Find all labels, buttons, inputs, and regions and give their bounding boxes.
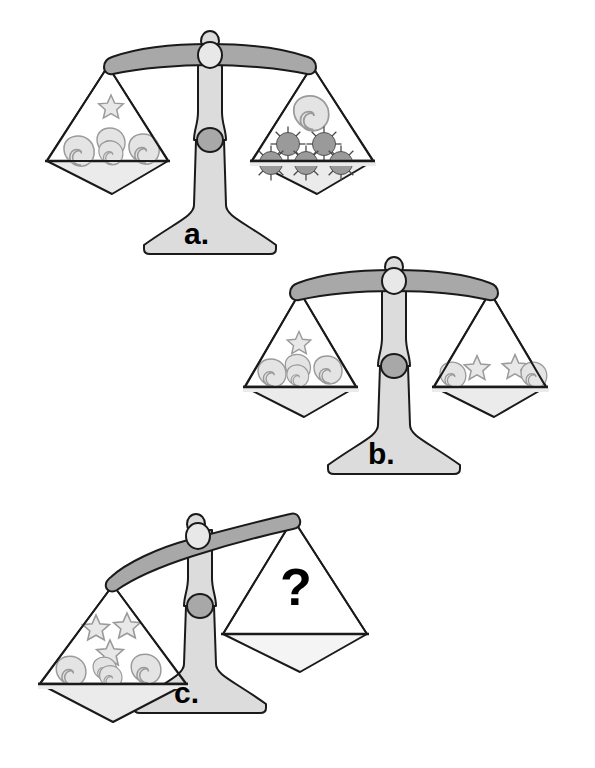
scale-b-pivot-knob [381, 354, 407, 378]
scale-c-pivot-knob [187, 594, 213, 618]
scale-a-left-pan-contents [64, 95, 159, 166]
scale-a: a. [45, 31, 376, 254]
question-mark-icon: ? [280, 558, 312, 616]
scale-c-label: c. [174, 676, 199, 709]
scale-b-label: b. [368, 437, 395, 470]
scale-c-right-pan-bowl [223, 634, 367, 672]
balance-scales-illustration: a. [0, 0, 595, 768]
scale-c-fulcrum [186, 523, 210, 549]
scale-b: b. [243, 257, 549, 474]
five-point-star-icon [99, 95, 124, 118]
scale-a-right-pan-contents [254, 96, 359, 181]
scale-a-pivot-knob [197, 128, 223, 152]
puzzle-canvas: a. [0, 0, 595, 768]
crescent-moon-icon [440, 362, 466, 388]
five-point-star-icon [83, 615, 110, 640]
scale-a-left-pan-bowl [47, 161, 168, 194]
crescent-moon-icon [258, 359, 286, 387]
scale-a-label: a. [184, 217, 209, 250]
scale-c-left-pan-contents [56, 613, 161, 688]
crescent-moon-icon [56, 656, 86, 686]
scale-a-base [144, 140, 276, 254]
five-point-star-icon [464, 356, 489, 380]
crescent-moon-icon [131, 654, 161, 684]
crescent-moon-icon [287, 365, 309, 387]
five-point-star-icon [287, 332, 311, 354]
scale-b-fulcrum [382, 268, 406, 294]
scale-c: ? c. [38, 513, 369, 722]
crescent-moon-icon [294, 96, 329, 131]
scale-a-fulcrum [198, 42, 222, 68]
crescent-moon-icon [314, 356, 342, 384]
